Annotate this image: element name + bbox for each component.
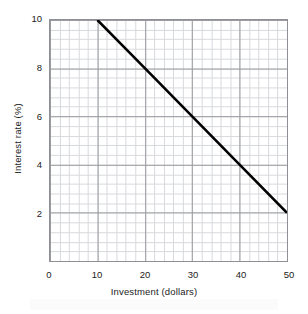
x-tick-label-10: 10 [84, 270, 110, 280]
x-tick-label-30: 30 [180, 270, 206, 280]
scan-artifact [30, 299, 278, 310]
y-tick-label-8: 8 [16, 63, 42, 73]
x-tick-label-20: 20 [132, 270, 158, 280]
data-series-line [50, 20, 287, 261]
y-axis-title: Interest rate (%) [12, 79, 23, 199]
y-tick-label-10: 10 [16, 14, 42, 24]
x-tick-label-40: 40 [228, 270, 254, 280]
plot-area [49, 19, 288, 262]
chart-figure: 10 8 6 4 2 0 10 20 30 40 50 Investment (… [0, 0, 308, 314]
x-tick-label-50: 50 [276, 270, 302, 280]
x-axis-title: Investment (dollars) [0, 286, 308, 297]
x-tick-label-0: 0 [36, 270, 62, 280]
y-tick-label-2: 2 [16, 209, 42, 219]
